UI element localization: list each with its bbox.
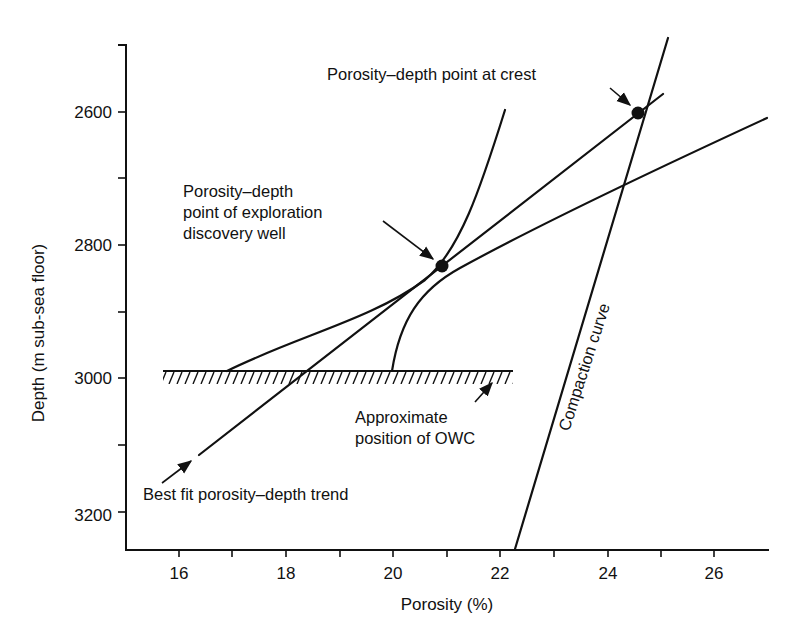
discovery-label-line3: discovery well	[183, 224, 286, 242]
x-tick-18: 18	[277, 564, 296, 583]
x-tick-labels: 16 18 20 22 24 26	[170, 564, 724, 583]
owc-label-line2: position of OWC	[355, 429, 475, 447]
discovery-well-point	[436, 260, 449, 273]
y-tick-2600: 2600	[74, 103, 112, 122]
x-tick-26: 26	[705, 564, 724, 583]
x-tick-22: 22	[491, 564, 510, 583]
trend-arrow-icon	[162, 461, 191, 483]
crest-arrow-icon	[610, 88, 630, 105]
porosity-depth-chart: 2600 2800 3000 3200 16 18 20 22 24 26 Po…	[0, 0, 797, 636]
discovery-label-line2: point of exploration	[183, 203, 322, 221]
y-axis-title: Depth (m sub-sea floor)	[29, 244, 48, 423]
crest-label: Porosity–depth point at crest	[327, 65, 537, 83]
axes	[118, 45, 769, 550]
y-tick-labels: 2600 2800 3000 3200	[74, 103, 112, 525]
y-tick-3200: 3200	[74, 506, 112, 525]
owc-label-line1: Approximate	[355, 408, 448, 426]
discovery-arrow-icon	[383, 221, 433, 259]
x-tick-16: 16	[170, 564, 189, 583]
x-tick-24: 24	[599, 564, 618, 583]
crest-point	[632, 107, 645, 120]
x-tick-20: 20	[384, 564, 403, 583]
owc-arrow-icon	[475, 383, 492, 402]
trend-label: Best fit porosity–depth trend	[143, 485, 348, 503]
x-ticks	[179, 550, 714, 557]
owc-line	[163, 371, 513, 384]
y-axis-line	[118, 45, 769, 550]
compaction-curve-line	[515, 38, 668, 549]
discovery-label-line1: Porosity–depth	[183, 182, 293, 200]
y-ticks	[118, 112, 126, 512]
x-axis-title: Porosity (%)	[401, 595, 494, 614]
y-tick-3000: 3000	[74, 369, 112, 388]
y-tick-2800: 2800	[74, 236, 112, 255]
